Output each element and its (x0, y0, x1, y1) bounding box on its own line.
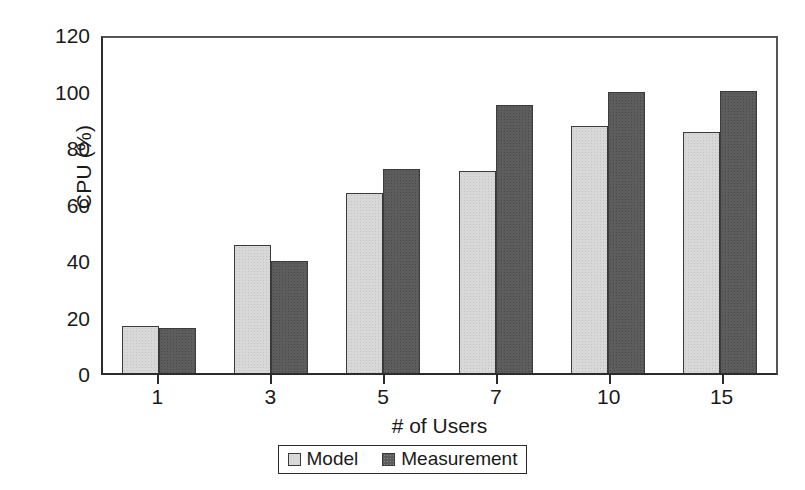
bar-series-container (103, 38, 776, 373)
legend-item-measurement[interactable]: Measurement (382, 448, 517, 470)
legend-label: Model (307, 448, 359, 470)
legend-item-model[interactable]: Model (288, 448, 359, 470)
bar-group (103, 38, 215, 373)
x-axis-title: # of Users (101, 414, 778, 438)
bar-model[interactable] (459, 171, 496, 373)
y-axis-tick-labels: 0 20 40 60 80 100 120 (30, 0, 101, 490)
bar-group (664, 38, 776, 373)
x-tick-label: 1 (101, 385, 214, 409)
y-tick-label: 60 (30, 194, 101, 218)
y-tick-label: 0 (30, 363, 101, 387)
y-tick-label: 100 (30, 81, 101, 105)
bar-measurement[interactable] (608, 92, 645, 373)
legend-swatch-icon (288, 453, 301, 466)
bar-model[interactable] (571, 126, 608, 373)
bar-model[interactable] (234, 245, 271, 373)
bar-chart-figure: CPU (%) 0 20 40 60 80 100 120 (0, 0, 805, 490)
bar-group (327, 38, 439, 373)
bar-measurement[interactable] (720, 91, 757, 373)
x-tick-label: 7 (439, 385, 552, 409)
y-tick-label: 80 (30, 137, 101, 161)
legend-box: Model Measurement (278, 445, 528, 474)
bar-model[interactable] (683, 132, 720, 373)
x-tick-label: 5 (327, 385, 440, 409)
bar-model[interactable] (346, 193, 383, 373)
y-tick-label: 40 (30, 250, 101, 274)
legend-swatch-icon (382, 453, 395, 466)
bar-measurement[interactable] (496, 105, 533, 373)
plot-area (101, 36, 778, 375)
y-tick-label: 20 (30, 307, 101, 331)
x-axis-tick-labels: 1 3 5 7 10 15 (101, 385, 778, 409)
bar-group (215, 38, 327, 373)
y-tick-label: 120 (30, 24, 101, 48)
bar-model[interactable] (122, 326, 159, 373)
bar-measurement[interactable] (271, 261, 308, 373)
bar-measurement[interactable] (383, 169, 420, 373)
bar-measurement[interactable] (159, 328, 196, 373)
x-tick-label: 3 (214, 385, 327, 409)
legend-label: Measurement (401, 448, 517, 470)
x-tick-label: 10 (552, 385, 665, 409)
bar-group (440, 38, 552, 373)
x-tick-label: 15 (665, 385, 778, 409)
bar-group (552, 38, 664, 373)
legend: Model Measurement (0, 445, 805, 474)
